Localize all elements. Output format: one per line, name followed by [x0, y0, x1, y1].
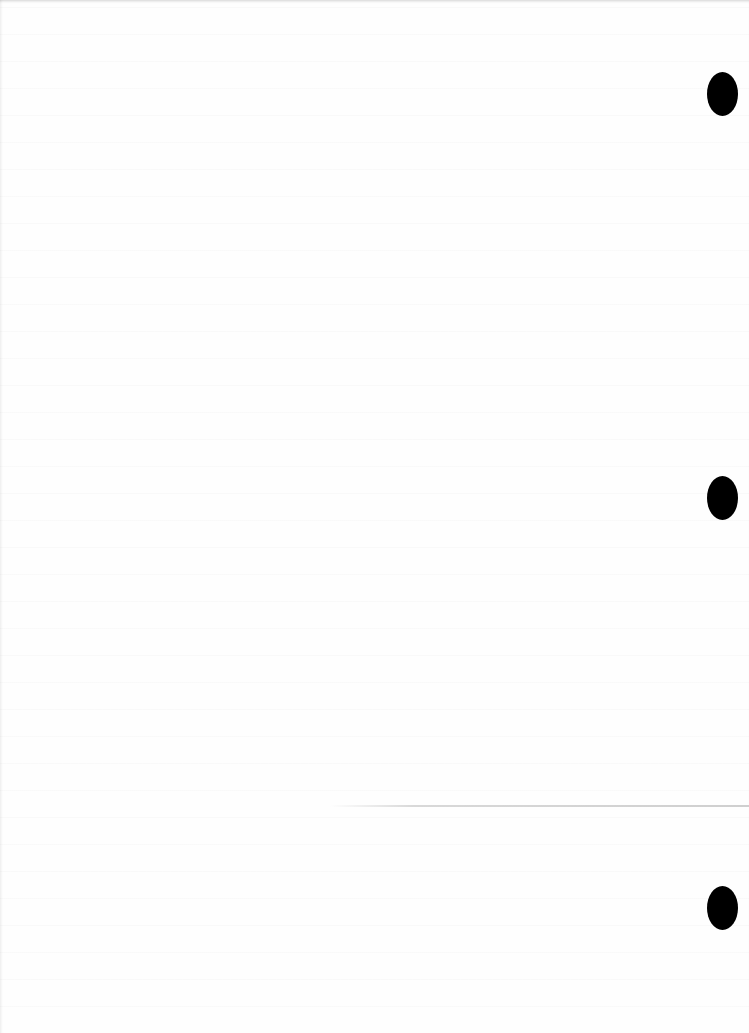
punch-hole-middle: [707, 476, 738, 520]
blank-page: [0, 0, 749, 1033]
reverse-side-bleed-through: [0, 0, 749, 1033]
punch-hole-top: [707, 72, 738, 116]
punch-hole-bottom: [707, 886, 738, 930]
fold-line: [330, 805, 749, 807]
